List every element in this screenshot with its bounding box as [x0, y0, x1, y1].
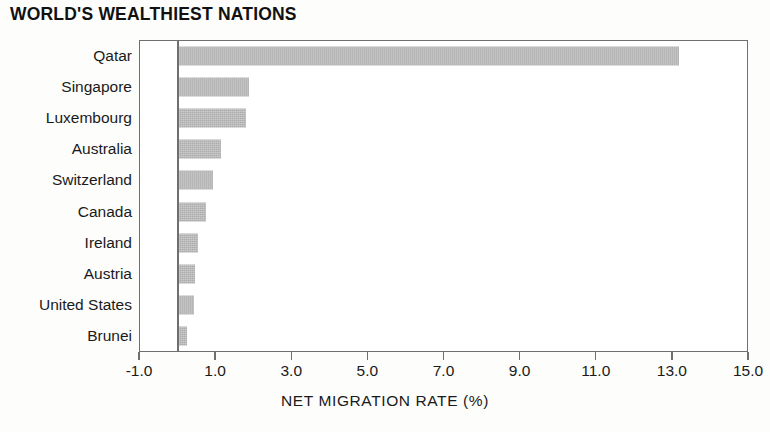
x-axis-tick-mark: [671, 352, 672, 360]
bar-row: [139, 196, 748, 227]
x-axis-tick-mark: [291, 352, 292, 360]
bar-row: [139, 40, 748, 71]
y-axis-category-labels: QatarSingaporeLuxembourgAustraliaSwitzer…: [0, 40, 132, 352]
x-axis-tick-label: 13.0: [657, 363, 687, 379]
y-axis-tick-label: United States: [0, 297, 132, 313]
x-axis-tick-label: 11.0: [581, 363, 610, 379]
y-axis-tick-label: Australia: [0, 141, 132, 157]
bar-series-layer: [139, 40, 748, 352]
bar-australia: [177, 140, 221, 159]
bar-row: [139, 71, 748, 102]
x-axis-tick-label: 1.0: [204, 363, 226, 379]
y-axis-tick-label: Brunei: [0, 328, 132, 344]
zero-baseline: [177, 40, 179, 352]
y-axis-tick-label: Luxembourg: [0, 110, 132, 126]
bar-row: [139, 321, 748, 352]
bar-ireland: [177, 233, 198, 252]
bar-luxembourg: [177, 108, 246, 127]
bar-switzerland: [177, 171, 213, 190]
x-axis-tick-mark: [214, 352, 215, 360]
x-axis-tick-mark: [138, 352, 139, 360]
x-axis-tick-label: 15.0: [733, 363, 763, 379]
x-axis-tick-mark: [595, 352, 596, 360]
bar-row: [139, 165, 748, 196]
chart-page: WORLD'S WEALTHIEST NATIONS QatarSingapor…: [0, 0, 770, 432]
page-title: WORLD'S WEALTHIEST NATIONS: [10, 4, 297, 25]
x-axis-tick-label: -1.0: [126, 363, 153, 379]
bar-row: [139, 227, 748, 258]
bar-row: [139, 258, 748, 289]
y-axis-tick-label: Ireland: [0, 235, 132, 251]
bar-row: [139, 102, 748, 133]
x-axis-tick-label: 7.0: [433, 363, 455, 379]
x-axis-tick-mark: [367, 352, 368, 360]
bar-row: [139, 134, 748, 165]
bar-row: [139, 290, 748, 321]
y-axis-tick-label: Qatar: [0, 48, 132, 64]
y-axis-tick-label: Switzerland: [0, 172, 132, 188]
x-axis-tick-label: 5.0: [357, 363, 379, 379]
y-axis-tick-label: Singapore: [0, 79, 132, 95]
bar-austria: [177, 264, 195, 283]
bar-singapore: [177, 77, 249, 96]
x-axis-tick-label: 9.0: [509, 363, 531, 379]
y-axis-tick-label: Canada: [0, 204, 132, 220]
x-axis-title: NET MIGRATION RATE (%): [0, 392, 770, 410]
bar-united-states: [177, 296, 194, 315]
x-axis-tick-mark: [747, 352, 748, 360]
x-axis-tick-label: 3.0: [280, 363, 302, 379]
y-axis-tick-label: Austria: [0, 266, 132, 282]
x-axis-tick-mark: [443, 352, 444, 360]
x-axis-tick-mark: [519, 352, 520, 360]
bar-qatar: [177, 46, 679, 65]
x-axis: -1.01.03.05.07.09.011.013.015.0: [0, 352, 770, 392]
bar-canada: [177, 202, 206, 221]
